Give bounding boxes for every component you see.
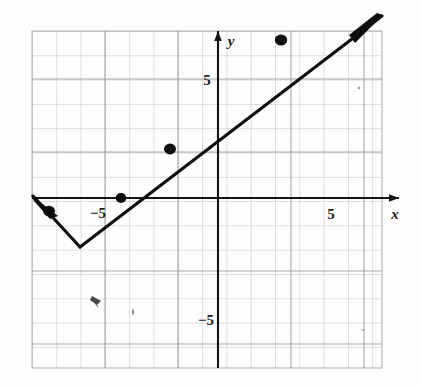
- stray-mark: [132, 309, 134, 315]
- x-tick-label-neg5: −5: [90, 205, 106, 221]
- y-axis-label: y: [226, 33, 235, 49]
- data-point: [43, 206, 55, 216]
- y-tick-label-5: 5: [203, 72, 211, 88]
- data-point: [275, 34, 287, 45]
- stray-mark: [361, 329, 365, 331]
- coordinate-plane-svg: −5 5 5 −5 x y: [0, 0, 421, 387]
- data-point: [164, 144, 176, 155]
- y-tick-label-neg5: −5: [198, 312, 214, 328]
- data-point: [116, 193, 127, 203]
- x-tick-label-5: 5: [327, 206, 335, 222]
- graph-figure: −5 5 5 −5 x y: [0, 0, 421, 387]
- stray-mark: [358, 87, 361, 90]
- x-axis-label: x: [390, 206, 399, 222]
